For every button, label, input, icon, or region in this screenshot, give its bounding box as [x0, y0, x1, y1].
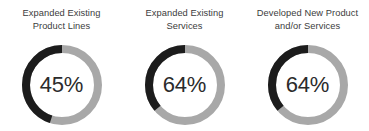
- gauge-panel-2: Expanded Existing Services 64%: [123, 0, 246, 131]
- panel-title: Developed New Product and/or Services: [245, 7, 369, 32]
- panel-title: Expanded Existing Product Lines: [0, 7, 124, 32]
- donut-gauge: 64%: [264, 41, 352, 129]
- donut-gauge-chart: Expanded Existing Product Lines 45% Expa…: [0, 0, 369, 131]
- donut-gauge-svg: [141, 41, 229, 129]
- donut-gauge: 45%: [18, 41, 106, 129]
- donut-gauge-svg: [264, 41, 352, 129]
- donut-gauge: 64%: [141, 41, 229, 129]
- gauge-panel-1: Expanded Existing Product Lines 45%: [0, 0, 123, 131]
- panel-title: Expanded Existing Services: [122, 7, 247, 32]
- gauge-panel-3: Developed New Product and/or Services 64…: [246, 0, 369, 131]
- donut-gauge-svg: [18, 41, 106, 129]
